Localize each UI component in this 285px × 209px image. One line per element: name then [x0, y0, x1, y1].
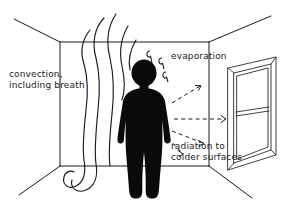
label-evaporation: evaporation — [171, 51, 227, 62]
radiation-arrowhead-up — [196, 86, 202, 91]
diagram-canvas: convection, including breath evaporation… — [0, 0, 285, 209]
person-head — [132, 60, 157, 87]
ceiling-line-right — [209, 16, 271, 42]
label-convection: convection, including breath — [9, 69, 85, 90]
radiation-arrowhead-horizontal — [221, 116, 226, 123]
label-radiation: radiation to colder surfaces — [171, 141, 242, 162]
convection-stream-1 — [64, 30, 90, 187]
convection-stream-2 — [72, 18, 104, 191]
window-sash-divider-bottom — [236, 111, 269, 116]
ceiling-line-left — [14, 19, 60, 42]
convection-stream-4 — [121, 26, 128, 100]
window-depth-tick-top — [228, 68, 234, 73]
convection-stream-3 — [108, 14, 116, 166]
floor-line-right — [209, 166, 252, 198]
person-silhouette — [117, 60, 170, 199]
evaporation-droplet-2 — [159, 58, 164, 69]
radiation-arrow-up — [172, 86, 200, 103]
person-body — [117, 88, 170, 199]
evaporation-droplet-3 — [163, 72, 168, 82]
diagram-illustration — [0, 0, 285, 209]
floor-line-left — [19, 166, 60, 195]
window-sash-divider-top — [236, 107, 269, 112]
window-depth-tick-bottom-right — [271, 150, 276, 155]
